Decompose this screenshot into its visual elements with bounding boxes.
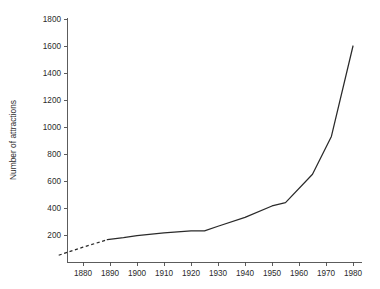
line-chart: 20040060080010001200140016001800 1880189…	[0, 0, 380, 289]
x-tick-label: 1940	[236, 269, 255, 278]
y-tick-label: 200	[47, 231, 61, 240]
y-axis-ticks	[64, 19, 68, 235]
x-tick-label: 1880	[74, 269, 93, 278]
y-tick-label: 400	[47, 204, 61, 213]
x-tick-label: 1920	[182, 269, 201, 278]
y-tick-label: 600	[47, 177, 61, 186]
plot-area	[59, 46, 353, 255]
y-axis-title: Number of attractions	[8, 100, 18, 180]
x-tick-label: 1980	[344, 269, 363, 278]
x-tick-label: 1910	[155, 269, 174, 278]
y-tick-label: 1000	[43, 123, 62, 132]
y-tick-label: 1200	[43, 96, 62, 105]
x-tick-label: 1900	[128, 269, 147, 278]
y-tick-label: 800	[47, 150, 61, 159]
x-tick-label: 1970	[317, 269, 336, 278]
x-tick-label: 1890	[101, 269, 120, 278]
y-tick-label: 1800	[43, 15, 62, 24]
x-axis: 1880189019001910192019301940195019601970…	[67, 262, 363, 278]
x-tick-label: 1950	[263, 269, 282, 278]
x-axis-tick-labels: 1880189019001910192019301940195019601970…	[74, 269, 363, 278]
y-axis-tick-labels: 20040060080010001200140016001800	[43, 15, 62, 240]
chart-container: 20040060080010001200140016001800 1880189…	[0, 0, 380, 289]
y-axis: 20040060080010001200140016001800	[43, 15, 67, 262]
series-line-observed	[107, 46, 353, 240]
x-tick-label: 1930	[209, 269, 228, 278]
x-tick-label: 1960	[290, 269, 309, 278]
x-axis-ticks	[83, 262, 353, 266]
series-line-extrapolated	[59, 240, 108, 256]
y-tick-label: 1600	[43, 42, 62, 51]
y-tick-label: 1400	[43, 69, 62, 78]
